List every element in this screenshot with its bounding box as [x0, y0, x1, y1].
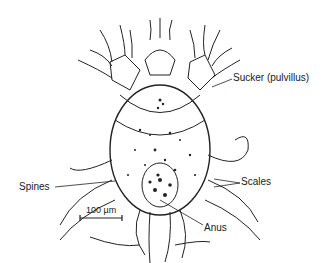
label-anus: Anus [204, 222, 227, 234]
body-outline [110, 85, 210, 215]
mite-illustration [0, 0, 331, 263]
label-scale-bar: 100 µm [86, 204, 116, 216]
label-sucker: Sucker (pulvillus) [233, 72, 309, 84]
label-scales: Scales [241, 176, 271, 188]
mite-diagram: Sucker (pulvillus) Scales Spines Anus 10… [0, 0, 331, 263]
label-spines: Spines [19, 181, 50, 193]
